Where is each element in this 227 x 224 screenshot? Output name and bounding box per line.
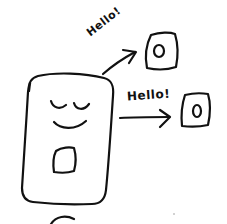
phone-top-left-tick [29, 83, 30, 91]
sketch-canvas: Hello! Hello! [0, 0, 227, 224]
device-2-outline [182, 93, 210, 126]
arrowhead-1-icon [123, 50, 136, 63]
device-1-outline [146, 33, 177, 70]
stray-dot [173, 213, 175, 215]
arrowhead-2-icon [160, 110, 170, 127]
device-1-circle-icon [154, 45, 164, 57]
home-button-icon [53, 147, 75, 172]
right-closed-eye-icon [74, 103, 89, 109]
phone-body-outline [22, 74, 113, 205]
left-closed-eye-icon [51, 101, 66, 108]
small-device-2 [182, 93, 210, 126]
smiling-phone [22, 74, 113, 205]
arrow-to-device-1 [103, 50, 136, 74]
small-device-1 [146, 33, 177, 70]
device-2-circle-icon [193, 105, 201, 117]
smile-icon [54, 121, 86, 128]
partial-bottom-shape [51, 217, 74, 224]
arrow-to-device-2 [120, 110, 170, 127]
hello-label-2: Hello! [127, 87, 171, 104]
